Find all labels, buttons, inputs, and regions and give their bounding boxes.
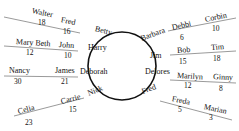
seating-diagram: Betty Harry Deborah Nick Barbara Jim Del…	[0, 0, 239, 131]
pair-num-bob: 15	[179, 58, 187, 66]
pair-name-bob: Bob	[177, 46, 191, 55]
pair-num-ginny: 8	[219, 85, 223, 93]
diagram-lines	[0, 0, 239, 131]
pair-name-nancy: Nancy	[9, 67, 30, 75]
circle-name-deborah: Deborah	[80, 68, 108, 76]
pair-num-fred: 16	[63, 28, 71, 36]
pair-num-mary-beth: 12	[26, 49, 34, 57]
pair-name-james: James	[55, 67, 75, 75]
pair-num-debbi: 6	[180, 34, 184, 42]
pair-num-freda: 5	[178, 106, 182, 114]
circle-name-jim: Jim	[150, 52, 162, 60]
circle-name-harry: Harry	[88, 44, 107, 52]
circle-name-delores: Delores	[145, 68, 170, 76]
pair-name-tim: Tim	[211, 43, 225, 52]
pair-num-nancy: 30	[14, 78, 22, 86]
pair-name-john: John	[59, 41, 75, 50]
pair-num-marilyn: 12	[184, 82, 192, 90]
pair-num-carrie: 15	[69, 106, 77, 114]
pair-name-ginny: Ginny	[213, 73, 233, 82]
pair-num-james: 21	[61, 78, 69, 86]
pair-num-tim: 18	[213, 55, 221, 63]
pair-num-walter: 18	[38, 19, 46, 27]
pair-num-john: 10	[64, 52, 72, 60]
pair-num-celia: 23	[25, 119, 33, 127]
pair-num-corbin: 10	[212, 25, 220, 33]
pair-name-marilyn: Marilyn	[177, 72, 203, 81]
pair-num-marian: 3	[209, 114, 213, 122]
